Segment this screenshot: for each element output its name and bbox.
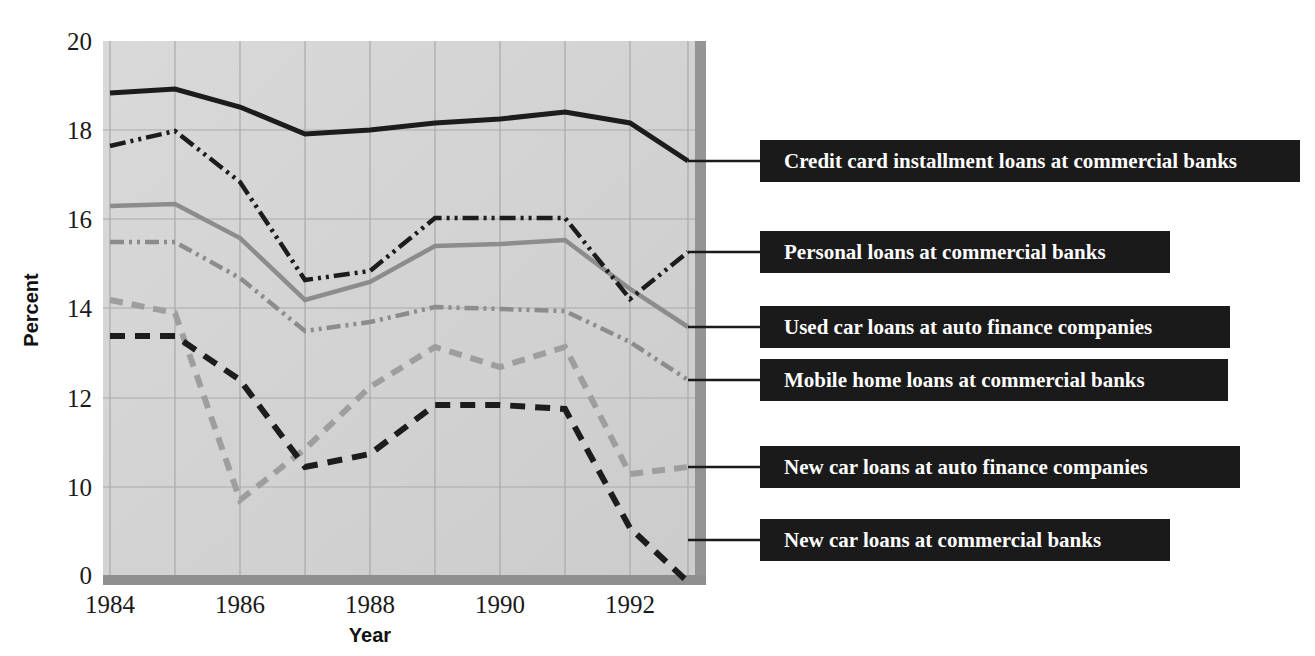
legend-label-used-car: Used car loans at auto finance companies — [784, 315, 1152, 339]
y-tick-label-16: 16 — [67, 206, 92, 233]
x-tick-label-1992: 1992 — [605, 591, 655, 618]
x-axis-title: Year — [349, 624, 391, 646]
legend-label-new-car-auto: New car loans at auto finance companies — [784, 455, 1148, 479]
legend-label-credit-card: Credit card installment loans at commerc… — [784, 149, 1237, 173]
plot-right-shadow — [695, 41, 706, 585]
y-axis-title: Percent — [20, 273, 42, 347]
legend-callout-new-car-auto[interactable]: New car loans at auto finance companies — [760, 446, 1240, 488]
legend-callout-new-car-commercial[interactable]: New car loans at commercial banks — [760, 519, 1170, 561]
legend-label-mobile-home: Mobile home loans at commercial banks — [784, 368, 1145, 392]
x-tick-label-1984: 1984 — [85, 591, 136, 618]
legend-label-new-car-commercial: New car loans at commercial banks — [784, 528, 1101, 552]
line-chart-svg: 20 18 16 14 12 10 0 1984 1986 1988 1990 … — [0, 0, 1315, 656]
legend-callout-credit-card[interactable]: Credit card installment loans at commerc… — [760, 140, 1300, 182]
plot-bottom-shadow — [103, 575, 706, 585]
y-tick-label-0: 0 — [80, 562, 93, 589]
legend-label-personal-loans: Personal loans at commercial banks — [784, 240, 1106, 264]
legend-callout-used-car[interactable]: Used car loans at auto finance companies — [760, 306, 1230, 348]
legend-callout-personal-loans[interactable]: Personal loans at commercial banks — [760, 231, 1170, 273]
y-tick-label-12: 12 — [67, 385, 92, 412]
y-tick-label-14: 14 — [67, 295, 93, 322]
chart-figure: 20 18 16 14 12 10 0 1984 1986 1988 1990 … — [0, 0, 1315, 656]
y-tick-label-20: 20 — [67, 28, 92, 55]
x-tick-label-1988: 1988 — [345, 591, 395, 618]
y-tick-label-10: 10 — [67, 474, 92, 501]
y-tick-label-18: 18 — [67, 117, 92, 144]
legend-callout-mobile-home[interactable]: Mobile home loans at commercial banks — [760, 359, 1228, 401]
x-tick-label-1990: 1990 — [475, 591, 525, 618]
x-tick-label-1986: 1986 — [215, 591, 265, 618]
